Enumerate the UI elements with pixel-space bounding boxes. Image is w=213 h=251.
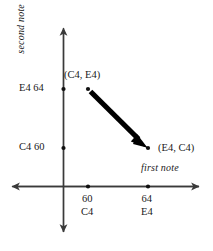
y-tick-e4 (61, 87, 65, 91)
y-tick-c4 (61, 146, 65, 150)
y-tick-label-e4: E4 64 (19, 83, 44, 94)
data-point-c4-e4 (86, 87, 90, 91)
transform-arrow (91, 92, 148, 148)
x-tick-64 (146, 184, 150, 188)
x-tick-label-64: 64 E4 (141, 194, 153, 217)
x-tick-label-64-number: 64 (141, 194, 153, 205)
data-point-label-e4-c4: (E4, C4) (158, 143, 194, 154)
y-axis-title: second note (16, 4, 26, 74)
x-tick-label-60: 60 C4 (81, 194, 93, 217)
data-point-label-c4-e4: (C4, E4) (64, 70, 100, 81)
note-pair-scatter-figure: E4 64 C4 60 60 C4 64 E4 first note secon… (0, 0, 213, 251)
x-tick-label-64-note: E4 (141, 207, 153, 218)
x-axis-title: first note (141, 163, 179, 173)
x-tick-60 (86, 184, 90, 188)
x-tick-label-60-note: C4 (81, 207, 93, 218)
plot-canvas (0, 0, 213, 251)
y-tick-label-c4: C4 60 (19, 142, 44, 153)
x-tick-label-60-number: 60 (81, 194, 93, 205)
